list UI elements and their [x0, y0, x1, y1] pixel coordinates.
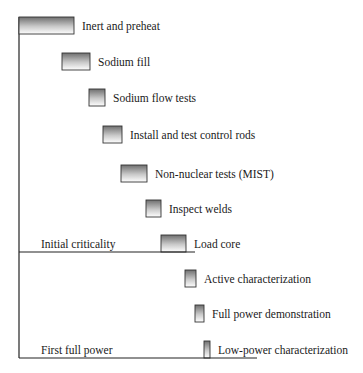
bar-layer	[19, 17, 210, 358]
task-bar	[204, 341, 210, 358]
task-label: Sodium flow tests	[113, 92, 197, 104]
task-bar	[19, 17, 74, 34]
task-bar	[103, 126, 122, 143]
task-label: Low-power characterization	[218, 344, 348, 357]
task-bar	[161, 235, 186, 252]
task-label: Inspect welds	[169, 203, 232, 216]
task-label: Sodium fill	[98, 56, 150, 68]
gantt-chart: Inert and preheatSodium fillSodium flow …	[0, 0, 363, 373]
milestone-label: Initial criticality	[41, 238, 116, 251]
task-label: Full power demonstration	[212, 308, 331, 321]
task-bar	[185, 270, 196, 287]
task-label: Install and test control rods	[130, 129, 256, 141]
milestone-layer: Initial criticalityFirst full power	[19, 238, 257, 358]
task-bar	[121, 165, 147, 182]
label-layer: Inert and preheatSodium fillSodium flow …	[82, 20, 348, 357]
task-label: Active characterization	[204, 273, 311, 285]
task-bar	[146, 200, 161, 217]
task-bar	[89, 89, 105, 106]
task-label: Load core	[194, 238, 240, 250]
task-bar	[195, 305, 204, 322]
task-label: Inert and preheat	[82, 20, 161, 33]
task-bar	[62, 53, 90, 70]
milestone-label: First full power	[41, 344, 113, 357]
task-label: Non-nuclear tests (MIST)	[155, 168, 274, 181]
